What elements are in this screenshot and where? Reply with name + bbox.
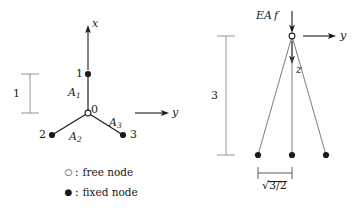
legend-label-fixed-node: fixed node [83,186,138,198]
dimension-label-sqrt3over2: √3/2 [262,180,287,191]
right-view-members [258,36,326,155]
node-2-fixed-elev [255,152,261,158]
member-label-A1: A1 [68,87,81,99]
y-axis-arrow-left-view [135,110,169,116]
member-label-A2: A2 [69,131,82,143]
axis-label-y-right: y [340,30,346,41]
node-2-fixed [49,132,55,138]
node-label-3: 3 [130,129,137,140]
legend-item-fixed-node: ● : fixed node [63,186,138,198]
right-dimension-bracket-3 [217,36,235,155]
node-label-1: 1 [76,68,83,79]
axis-label-y-left: y [172,107,178,118]
member-left [258,36,292,155]
node-1-fixed [85,71,91,77]
y-axis-arrow-right-view [303,33,336,39]
member-label-A3: A3 [109,117,122,129]
figure-root: x y 1 1 0 2 3 A1 A2 A3 EAf y z 3 √3/2 ○ … [0,0,358,211]
load-arrow-EAf [289,11,295,33]
dimension-label-1: 1 [13,88,20,99]
legend-separator: : [74,186,83,198]
node-1-fixed-elev [289,152,295,158]
left-dimension-bracket-1 [21,74,39,113]
load-label-EAf: EAf [256,10,278,21]
node-3-fixed [120,132,126,138]
node-label-2: 2 [39,129,46,140]
node-label-0: 0 [91,104,98,115]
legend-item-free-node: ○ : free node [63,166,133,178]
open-circle-icon: ○ [63,168,74,177]
right-dimension-bracket-sqrt3over2 [258,167,292,179]
axis-label-x: x [92,18,98,29]
truss-figure-svg [0,0,358,211]
legend-label-free-node: free node [83,166,134,178]
x-axis-arrow [85,25,91,70]
legend-separator: : [74,166,83,178]
node-0-free-elev [289,33,295,39]
dimension-label-3: 3 [211,90,218,101]
filled-circle-icon: ● [63,188,74,197]
axis-label-z: z [296,64,302,75]
node-3-fixed-elev [323,152,329,158]
member-right [292,36,326,155]
